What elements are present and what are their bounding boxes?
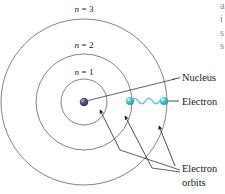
electron-inner-sphere [126, 97, 134, 105]
edge-fragment-3: s [220, 27, 224, 38]
callout-label-electron-orbits-line1: Electron [182, 163, 218, 174]
shell-label-n1-value: 1 [89, 67, 94, 77]
orbit-arrow-to-n2 [125, 116, 152, 168]
shell-label-n3: n = 3 [75, 4, 94, 14]
shell-label-n3-eq: = [79, 4, 89, 14]
bohr-model-figure: n = 3 n = 2 n = 1 [0, 0, 225, 194]
edge-fragment-1: a [220, 0, 225, 11]
electron-inner-highlight [128, 99, 130, 101]
electron-outer [160, 97, 168, 105]
callout-label-nucleus: Nucleus [182, 72, 216, 83]
callout-label-electron: Electron [182, 96, 218, 107]
nucleus-leader-dash [172, 78, 180, 80]
electron-inner [126, 97, 134, 105]
edge-text-fragments: a i s s [220, 0, 225, 51]
shell-label-n1-eq: = [79, 67, 89, 77]
nucleus-highlight [81, 99, 84, 102]
orbit-arrow-to-n3 [159, 126, 175, 166]
edge-fragment-4: s [220, 40, 224, 51]
shell-label-n2-value: 2 [89, 40, 94, 50]
shell-label-n3-value: 3 [89, 4, 94, 14]
orbit-pointer-arrows [100, 110, 175, 168]
nucleus [80, 98, 89, 107]
shell-label-n2-eq: = [79, 40, 89, 50]
callout-label-electron-orbits-line2: orbits [182, 177, 206, 188]
shell-label-n1: n = 1 [75, 67, 94, 77]
electron-orbits-leader-lines [120, 150, 180, 172]
electron-outer-highlight [162, 99, 164, 101]
electron-outer-sphere [160, 97, 168, 105]
edge-fragment-2: i [220, 13, 223, 24]
orbit-arrow-to-n1 [100, 110, 120, 150]
shell-label-n2: n = 2 [75, 40, 94, 50]
nucleus-sphere [80, 98, 89, 107]
bohr-model-diagram: n = 3 n = 2 n = 1 [0, 0, 225, 194]
